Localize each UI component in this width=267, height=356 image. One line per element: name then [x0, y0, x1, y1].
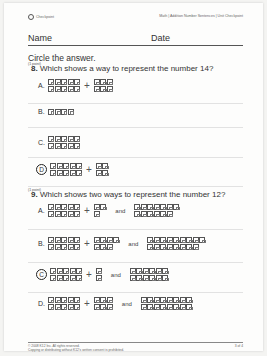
date-label: Date: [151, 33, 170, 43]
unit-block-icon: [134, 204, 140, 210]
q8-option-d[interactable]: D+: [38, 163, 108, 176]
plus-sign: +: [84, 81, 90, 91]
worksheet-page: Checkpoint Math | Addition Number Senten…: [4, 3, 263, 351]
unit-block-icon: [173, 237, 179, 243]
unit-block-icon: [100, 297, 106, 303]
q9-option-d[interactable]: D.+and: [38, 297, 192, 310]
unit-block-icon: [61, 204, 67, 210]
page-number: 3 of 4: [235, 344, 243, 348]
checkpoint-icon: [28, 14, 34, 20]
unit-block-icon: [61, 244, 67, 250]
unit-block-icon: [180, 237, 186, 243]
unit-block-icon: [68, 237, 74, 243]
unit-block-icon: [167, 244, 173, 250]
unit-block-icon: [61, 136, 67, 142]
block-group: [48, 237, 80, 250]
plus-sign: +: [86, 165, 92, 175]
q8-option-a[interactable]: A.+: [38, 79, 113, 92]
unit-block-icon: [156, 268, 162, 274]
unit-block-icon: [100, 79, 106, 85]
unit-block-icon: [100, 86, 106, 92]
unit-block-icon: [74, 79, 80, 85]
unit-block-icon: [68, 297, 74, 303]
unit-block-icon: [48, 136, 54, 142]
unit-block-icon: [96, 268, 102, 274]
unit-block-icon: [160, 211, 166, 217]
unit-block-icon: [55, 143, 61, 149]
unit-block-icon: [141, 297, 147, 303]
unit-block-icon: [55, 109, 61, 115]
unit-block-icon: [94, 211, 100, 217]
unit-block-icon: [156, 275, 162, 281]
unit-block-icon: [154, 304, 160, 310]
unit-block-icon: [74, 136, 80, 142]
unit-block-icon: [130, 268, 136, 274]
block-group: [96, 163, 109, 176]
unit-block-icon: [76, 163, 82, 169]
unit-block-icon: [50, 170, 56, 176]
unit-block-icon: [154, 237, 160, 243]
unit-block-icon: [173, 304, 179, 310]
divider: [28, 262, 243, 263]
unit-block-icon: [141, 204, 147, 210]
unit-block-icon: [100, 237, 106, 243]
unit-block-icon: [180, 304, 186, 310]
unit-block-icon: [48, 143, 54, 149]
unit-block-icon: [147, 211, 153, 217]
block-group: [94, 237, 120, 250]
unit-block-icon: [63, 268, 69, 274]
unit-block-icon: [74, 143, 80, 149]
and-label: and: [128, 241, 138, 247]
divider: [28, 127, 243, 128]
q8-prompt: 8. Which shows a way to represent the nu…: [31, 64, 213, 73]
unit-block-icon: [107, 244, 113, 250]
block-group: [130, 268, 169, 281]
divider: [28, 292, 243, 293]
unit-block-icon: [70, 268, 76, 274]
unit-block-icon: [94, 297, 100, 303]
unit-block-icon: [149, 268, 155, 274]
unit-block-icon: [50, 268, 56, 274]
unit-block-icon: [74, 297, 80, 303]
and-label: and: [115, 208, 125, 214]
unit-block-icon: [94, 79, 100, 85]
unit-block-icon: [154, 211, 160, 217]
unit-block-icon: [63, 275, 69, 281]
unit-block-icon: [61, 211, 67, 217]
q8-option-c[interactable]: C.: [38, 136, 80, 149]
unit-block-icon: [149, 275, 155, 281]
unit-block-icon: [167, 297, 173, 303]
unit-block-icon: [68, 86, 74, 92]
unit-block-icon: [48, 204, 54, 210]
plus-sign: +: [86, 270, 92, 280]
option-letter: A.: [38, 207, 48, 214]
q9-option-c[interactable]: C+and: [38, 268, 168, 281]
q8-number: 8.: [31, 64, 38, 73]
q8-option-b[interactable]: B.: [38, 108, 74, 115]
q9-option-a[interactable]: A.+and: [38, 204, 179, 217]
unit-block-icon: [167, 237, 173, 243]
q9-option-b[interactable]: B.+and: [38, 237, 205, 250]
unit-block-icon: [55, 237, 61, 243]
unit-block-icon: [160, 297, 166, 303]
unit-block-icon: [74, 86, 80, 92]
unit-block-icon: [68, 136, 74, 142]
checkpoint-label: Checkpoint: [28, 14, 54, 20]
block-group: [48, 204, 80, 217]
unit-block-icon: [107, 297, 113, 303]
unit-block-icon: [55, 244, 61, 250]
unit-block-icon: [48, 244, 54, 250]
block-group: [141, 297, 193, 310]
unit-block-icon: [180, 297, 186, 303]
unit-block-icon: [186, 304, 192, 310]
unit-block-icon: [76, 170, 82, 176]
unit-block-icon: [70, 275, 76, 281]
unit-block-icon: [48, 237, 54, 243]
unit-block-icon: [94, 86, 100, 92]
divider: [28, 103, 243, 104]
option-letter: B.: [38, 108, 48, 115]
unit-block-icon: [70, 170, 76, 176]
unit-block-icon: [70, 163, 76, 169]
unit-block-icon: [57, 170, 63, 176]
unit-block-icon: [130, 275, 136, 281]
